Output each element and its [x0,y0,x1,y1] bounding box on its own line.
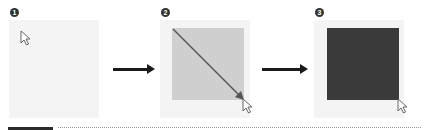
arrow-pointer-icon [242,98,254,114]
arrow-pointer-icon [20,30,32,46]
step-number-2: 2 [161,8,170,17]
arrow-pointer-icon [397,98,409,114]
right-arrow-icon [262,68,302,71]
step-number-3: 3 [315,8,324,17]
footer-tab-marker [8,127,53,130]
filled-square [327,28,399,100]
drag-path-arrow-icon [172,28,247,103]
footer-divider [58,127,421,129]
right-arrow-icon [113,68,149,71]
step-number-1: 1 [10,8,19,17]
